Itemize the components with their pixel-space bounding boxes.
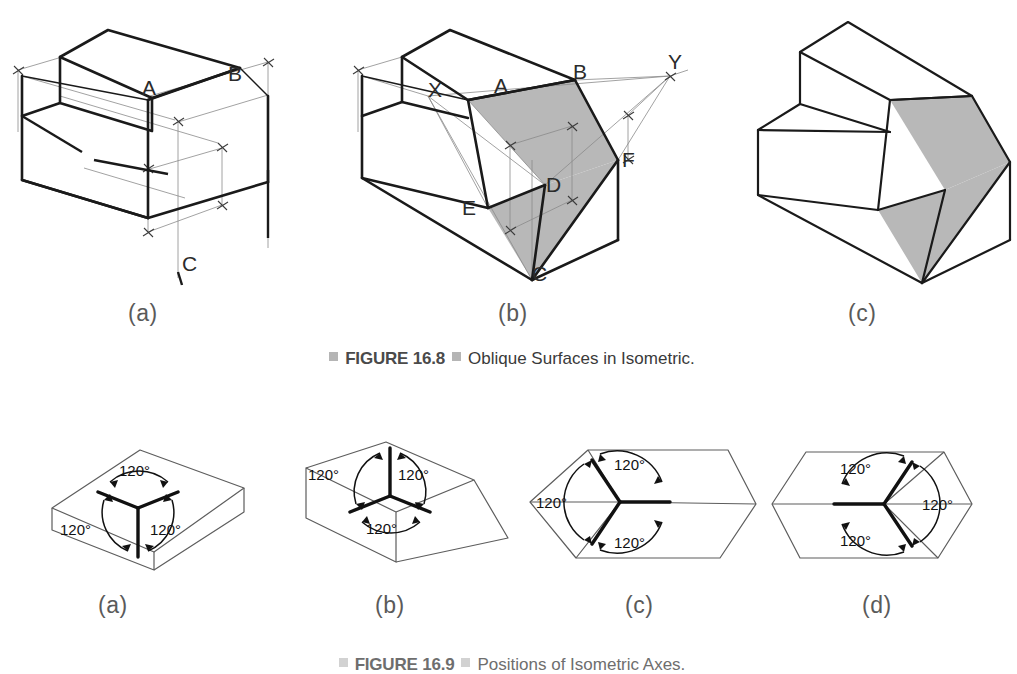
angle-label-9a-left: 120° <box>60 521 91 538</box>
caption-inner-16-8: FIGURE 16.8Oblique Surfaces in Isometric… <box>322 349 695 369</box>
figure-page: A B C <box>0 0 1017 674</box>
sublabel-16-9-d: (d) <box>862 592 892 619</box>
vertex-label-a-B: B <box>228 62 243 86</box>
angle-label-9c-top: 120° <box>614 456 645 473</box>
figure-16-9-row: 120° 120° 120° <box>0 430 1017 640</box>
vertex-label-b-X: X <box>428 78 443 102</box>
figure-16-8-caption: FIGURE 16.8Oblique Surfaces in Isometric… <box>0 349 1017 369</box>
vertex-label-b-F: F <box>622 148 635 172</box>
sublabel-16-8-a: (a) <box>128 300 158 327</box>
angle-label-9b-left: 120° <box>308 466 339 483</box>
caption-figure-number: FIGURE 16.8 <box>345 349 445 368</box>
vertex-label-b-C: C <box>532 262 548 286</box>
vertex-label-b-A: A <box>494 74 509 98</box>
object-light-edges-b <box>362 76 468 100</box>
figure-16-8-panel-b <box>340 0 700 300</box>
angle-label-9b-bottom: 120° <box>366 520 397 537</box>
figure-16-9-panel-a: 120° 120° 120° <box>18 430 258 605</box>
vertex-label-a-A: A <box>142 76 157 100</box>
angle-label-9a-top: 120° <box>119 462 150 479</box>
caption-figure-number-9: FIGURE 16.9 <box>355 655 455 674</box>
figure-16-9-panel-c: 120° 120° 120° <box>508 430 768 605</box>
object-outline-a <box>22 30 268 218</box>
vertex-label-b-E: E <box>462 196 477 220</box>
sublabel-16-9-c: (c) <box>625 592 653 619</box>
angle-label-9a-right: 120° <box>150 521 181 538</box>
sublabel-16-8-b: (b) <box>498 300 528 327</box>
figure-16-9-panel-b: 120° 120° 120° <box>278 430 528 605</box>
vertex-label-a-C: C <box>182 252 198 276</box>
caption-inner-16-9: FIGURE 16.9Positions of Isometric Axes. <box>332 655 686 674</box>
figure-16-9-caption: FIGURE 16.9Positions of Isometric Axes. <box>0 655 1017 674</box>
angle-label-9b-right: 120° <box>398 466 429 483</box>
figure-16-8-row: A B C <box>0 0 1017 335</box>
vertex-label-b-Y: Y <box>668 50 683 74</box>
sublabel-16-8-c: (c) <box>848 300 876 327</box>
vertex-label-b-B: B <box>573 60 588 84</box>
angle-label-9c-bottom: 120° <box>614 534 645 551</box>
figure-16-9-panel-d: 120° 120° 120° <box>758 430 1013 605</box>
trimmed-edge-a <box>22 116 168 174</box>
angle-label-9d-bottom: 120° <box>840 532 871 549</box>
caption-figure-title-9: Positions of Isometric Axes. <box>477 655 685 674</box>
figure-16-8-panel-a <box>0 0 340 300</box>
caption-marker-left-icon-9 <box>339 658 348 667</box>
caption-marker-right-icon-9 <box>461 658 470 667</box>
angle-label-9d-top: 120° <box>840 460 871 477</box>
vertex-label-b-D: D <box>546 173 562 197</box>
sublabel-16-9-b: (b) <box>375 592 405 619</box>
sublabel-16-9-a: (a) <box>98 592 128 619</box>
caption-marker-right-icon <box>452 352 461 361</box>
caption-figure-title: Oblique Surfaces in Isometric. <box>468 349 695 368</box>
caption-marker-left-icon <box>329 352 338 361</box>
angle-label-9c-left: 120° <box>536 494 567 511</box>
angle-label-9d-right: 120° <box>922 496 953 513</box>
figure-16-8-panel-c <box>700 0 1017 300</box>
